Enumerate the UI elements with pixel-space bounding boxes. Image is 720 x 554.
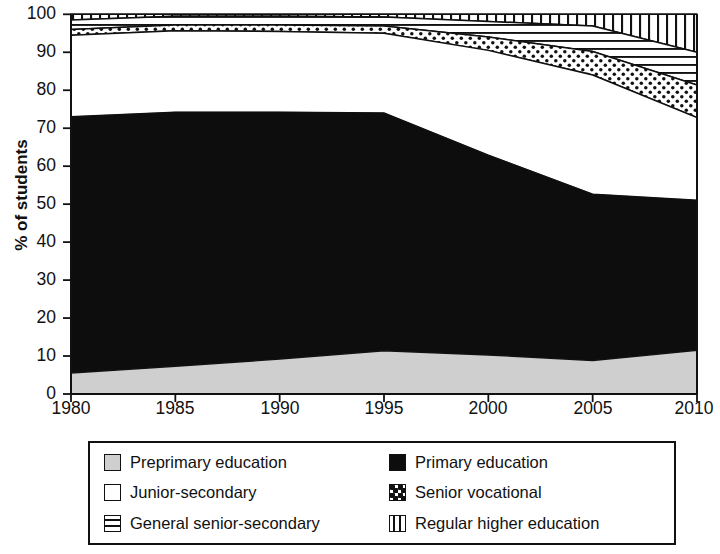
legend-label-general-senior-secondary: General senior-secondary [130,514,320,533]
stacked-bands [71,14,697,394]
legend-label-regular-higher-education: Regular higher education [415,514,599,533]
legend-label-primary-education: Primary education [415,453,548,472]
legend-item-senior-vocational: Senior vocational [389,483,674,502]
legend-label-senior-vocational: Senior vocational [415,483,542,502]
white-swatch-icon [104,484,121,501]
legend: Preprimary education Primary education J… [88,441,676,545]
legend-label-junior-secondary: Junior-secondary [130,483,257,502]
horizontal-stripes-swatch-icon [104,515,121,532]
legend-item-general-senior-secondary: General senior-secondary [104,514,389,533]
x-tick-2000: 2000 [453,398,523,419]
checker-dots-swatch-icon [389,484,406,501]
x-tick-2005: 2005 [558,398,628,419]
stacked-area-chart: % of students 100 90 80 70 60 50 40 30 2… [0,0,720,554]
legend-item-primary-education: Primary education [389,453,674,472]
x-tick-2010: 2010 [659,398,720,419]
solid-black-swatch-icon [389,454,406,471]
x-tick-1980: 1980 [36,398,106,419]
vertical-stripes-swatch-icon [389,515,406,532]
solid-grey-swatch-icon [104,454,121,471]
plot-area [0,0,720,420]
legend-item-junior-secondary: Junior-secondary [104,483,389,502]
legend-label-preprimary-education: Preprimary education [130,453,287,472]
legend-item-regular-higher-education: Regular higher education [389,514,674,533]
x-tick-1995: 1995 [349,398,419,419]
x-tick-1985: 1985 [140,398,210,419]
x-tick-1990: 1990 [245,398,315,419]
legend-item-preprimary-education: Preprimary education [104,453,389,472]
